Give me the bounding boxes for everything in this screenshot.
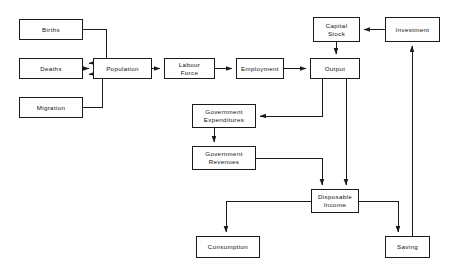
edge-disposable-income-consumption <box>226 201 311 232</box>
node-output[interactable]: Output <box>310 58 360 79</box>
node-population-label: Population <box>106 65 139 73</box>
node-labour-force[interactable]: Labour Force <box>164 58 215 79</box>
node-labour-force-label: Labour Force <box>179 61 200 77</box>
node-government-expenditures-label: Government Expenditures <box>204 108 244 124</box>
node-consumption-label: Consumption <box>208 243 248 251</box>
node-population[interactable]: Population <box>93 58 152 79</box>
node-capital-stock[interactable]: Capital Stock <box>313 17 360 42</box>
flow-diagram-canvas: Births Deaths Migration Population Labou… <box>0 0 452 273</box>
node-employment[interactable]: Employment <box>236 58 284 79</box>
node-deaths-label: Deaths <box>40 65 62 73</box>
edge-output-gov-expenditures <box>260 79 322 116</box>
node-disposable-income[interactable]: Disposable Income <box>311 189 359 213</box>
node-disposable-income-label: Disposable Income <box>318 193 352 209</box>
node-migration[interactable]: Migration <box>19 97 83 118</box>
node-consumption[interactable]: Consumption <box>196 236 260 258</box>
node-output-label: Output <box>325 65 346 73</box>
node-births[interactable]: Births <box>19 19 83 40</box>
node-government-revenues[interactable]: Government Revenues <box>192 146 256 170</box>
node-migration-label: Migration <box>37 104 66 112</box>
node-government-revenues-label: Government Revenues <box>205 150 243 166</box>
node-saving-label: Saving <box>397 243 418 251</box>
edge-gov-revenues-disposable-income <box>256 158 322 185</box>
edge-migration-population <box>83 74 102 108</box>
node-investment[interactable]: Investment <box>385 17 440 42</box>
node-employment-label: Employment <box>241 65 279 73</box>
node-births-label: Births <box>42 26 60 34</box>
node-capital-stock-label: Capital Stock <box>326 22 348 38</box>
node-government-expenditures[interactable]: Government Expenditures <box>192 104 256 128</box>
node-investment-label: Investment <box>396 26 430 34</box>
edge-disposable-income-saving <box>359 201 398 232</box>
node-saving[interactable]: Saving <box>385 236 430 258</box>
node-deaths[interactable]: Deaths <box>19 58 83 79</box>
